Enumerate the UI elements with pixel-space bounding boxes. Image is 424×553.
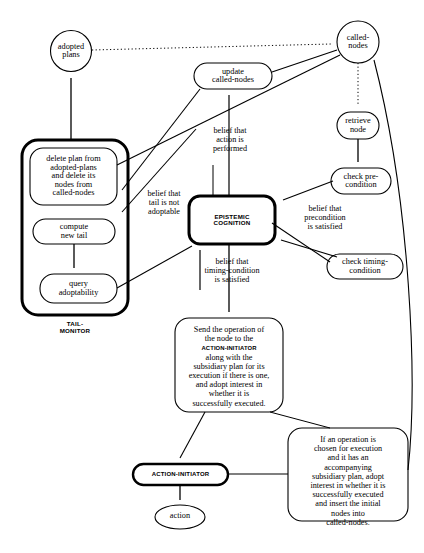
node-action-initiator <box>133 464 228 485</box>
edge-check-timing-epistemic <box>281 240 337 257</box>
edge-update-called-nodes-delete-plan <box>122 89 200 190</box>
node-compute-new-tail <box>33 219 115 244</box>
node-action <box>155 505 205 529</box>
diagram-canvas: adoptedplans called-nodes updatecalled-n… <box>0 0 424 553</box>
label-tail-monitor: TAIL-MONITOR <box>30 320 120 334</box>
node-query-adoptability <box>40 274 117 303</box>
edge-send-operation-if-operation <box>270 412 330 428</box>
edge-adopted-plans-called-nodes <box>92 44 331 50</box>
node-epistemic-cognition <box>189 196 275 244</box>
edge-check-precondition-epistemic <box>283 181 333 200</box>
edge-send-operation-action-initiator <box>180 412 205 458</box>
node-if-operation <box>288 428 408 521</box>
node-check-timing-condition <box>327 254 403 279</box>
diagram-graphics <box>0 0 424 553</box>
node-check-precondition <box>331 168 391 194</box>
node-retrieve-node <box>337 112 379 139</box>
node-send-operation <box>175 318 283 412</box>
edge-epistemic-check-timing <box>272 223 330 262</box>
node-update-called-nodes <box>194 63 272 89</box>
node-adopted-plans <box>51 31 92 72</box>
node-called-nodes <box>337 21 379 63</box>
node-delete-plan <box>30 148 117 205</box>
